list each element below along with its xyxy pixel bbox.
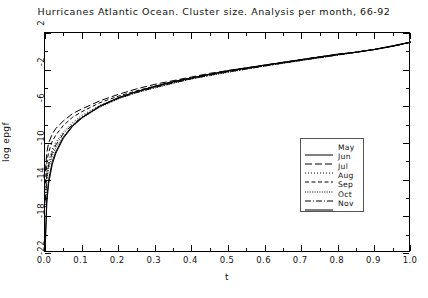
x-axis-tick [191,33,192,39]
chart-legend: MayJunJulAugSepOctNov [300,138,364,212]
y-axis-tick [403,33,409,34]
x-axis-tick [265,245,266,251]
legend-swatch-jun [304,153,334,161]
x-axis-tick-label: 0.9 [366,255,381,265]
x-axis-tick [410,245,411,251]
legend-label-aug: Aug [338,171,354,180]
legend-label-jun: Jun [338,152,351,161]
x-axis-tick [118,245,119,251]
x-axis-tick [118,33,119,39]
x-axis-tick [82,245,83,251]
x-axis-tick-label: 0.7 [293,255,308,265]
y-axis-minor-tick [45,235,48,236]
x-axis-tick [45,33,46,39]
x-axis-tick [338,33,339,39]
x-axis-tick [155,245,156,251]
legend-swatch-nov [304,199,334,207]
y-axis-tick [45,253,51,254]
y-axis-tick [45,70,51,71]
x-axis-tick [45,245,46,251]
x-axis-minor-tick [173,248,174,251]
y-axis-minor-tick [45,198,48,199]
y-axis-tick [403,143,409,144]
chart-title: Hurricanes Atlantic Ocean. Cluster size.… [0,6,428,17]
x-axis-minor-tick [246,33,247,36]
x-axis-tick-label: 0.8 [329,255,344,265]
x-axis-minor-tick [393,33,394,36]
x-axis-tick-label: 0.5 [220,255,235,265]
y-axis-minor-tick [45,51,48,52]
y-axis-tick [403,253,409,254]
y-axis-minor-tick [406,88,409,89]
x-axis-tick-label: 0.1 [73,255,88,265]
y-tick-label-group: 2-2-6-10-14-18-22 [0,32,40,252]
x-axis-tick-label: 0.4 [183,255,198,265]
x-axis-tick-label: 0.3 [146,255,161,265]
x-axis-minor-tick [283,248,284,251]
y-axis-minor-tick [406,198,409,199]
y-axis-tick [45,216,51,217]
x-axis-minor-tick [173,33,174,36]
x-axis-tick-label: 0.2 [110,255,125,265]
x-axis-minor-tick [210,33,211,36]
x-axis-minor-tick [283,33,284,36]
x-axis-tick [410,33,411,39]
legend-swatch-sep [304,181,334,189]
legend-item-may[interactable]: May [304,143,360,152]
x-axis-minor-tick [356,33,357,36]
legend-swatch-may [304,144,334,152]
legend-swatch-aug [304,171,334,179]
x-axis-tick [228,33,229,39]
x-axis-tick [191,245,192,251]
y-axis-tick [403,180,409,181]
y-axis-minor-tick [406,125,409,126]
y-axis-minor-tick [45,161,48,162]
x-axis-minor-tick [356,248,357,251]
legend-swatch-jul [304,162,334,170]
x-axis-tick-label: 0.6 [256,255,271,265]
x-axis-minor-tick [393,248,394,251]
y-axis-minor-tick [45,88,48,89]
legend-item-jun[interactable]: Jun [304,152,360,161]
legend-label-jul: Jul [338,162,348,171]
legend-item-jul[interactable]: Jul [304,162,360,171]
legend-label-oct: Oct [338,190,352,199]
x-axis-tick [374,33,375,39]
x-axis-minor-tick [100,248,101,251]
y-axis-tick [403,216,409,217]
legend-item-aug[interactable]: Aug [304,171,360,180]
x-axis-tick-label: 0.0 [37,255,52,265]
legend-label-may: May [338,143,355,152]
x-axis-minor-tick [210,248,211,251]
legend-item-oct[interactable]: Oct [304,190,360,199]
x-axis-tick [228,245,229,251]
y-axis-tick [403,70,409,71]
x-axis-tick [338,245,339,251]
x-axis-tick [301,33,302,39]
x-axis-minor-tick [63,33,64,36]
y-axis-tick-label: 2 [36,20,46,26]
x-axis-minor-tick [63,248,64,251]
x-axis-label: t [44,272,410,282]
legend-item-nov[interactable]: Nov [304,199,360,208]
x-axis-tick [374,245,375,251]
x-axis-tick [155,33,156,39]
legend-label-nov: Nov [338,199,354,208]
x-tick-label-group: 0.00.10.20.30.40.50.60.70.80.91.0 [44,255,410,269]
y-axis-tick [403,106,409,107]
x-axis-tick-label: 1.0 [403,255,418,265]
x-axis-minor-tick [100,33,101,36]
y-axis-minor-tick [406,51,409,52]
legend-item-sep[interactable]: Sep [304,180,360,189]
y-axis-minor-tick [406,161,409,162]
x-axis-minor-tick [246,248,247,251]
y-axis-tick [45,106,51,107]
x-axis-minor-tick [137,33,138,36]
x-axis-minor-tick [320,33,321,36]
y-axis-minor-tick [45,125,48,126]
y-axis-tick [45,180,51,181]
x-axis-tick [82,33,83,39]
y-axis-minor-tick [406,235,409,236]
x-axis-tick [301,245,302,251]
y-axis-tick [45,143,51,144]
